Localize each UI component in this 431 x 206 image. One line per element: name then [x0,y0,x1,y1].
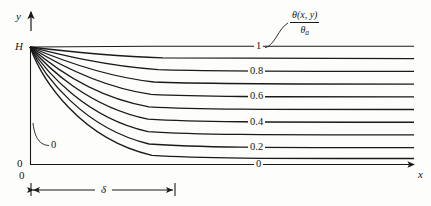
ratio-denominator-subscript: a [305,28,309,37]
ratio-denominator: θa [290,23,319,38]
contour-label-1: 1 [254,41,263,52]
contour-curve-0.1 [30,47,414,159]
contour-label-0.6: 0.6 [248,91,265,102]
y-axis-top-label-H: H [15,41,23,52]
contour-curve-0.9 [30,47,414,59]
contour-curve-0.5 [30,47,414,110]
boundary-layer-contour-plot [0,0,431,206]
contour-label-0.8: 0.8 [248,66,265,77]
delta-label: δ [98,184,109,195]
contour-label-0.2: 0.2 [248,142,265,153]
ratio-annotation: θ(x, y) θa [290,9,319,37]
y-axis-origin-label: 0 [17,158,23,169]
x-axis-label: x [418,169,423,180]
ratio-leader-line [265,23,288,48]
ratio-numerator: θ(x, y) [290,9,319,23]
contour-label-0: 0 [254,159,263,170]
contour-label-0.4: 0.4 [248,117,265,128]
x-axis-origin-label: 0 [19,170,25,181]
figure-container: y x H 0 0 1 0.8 0.6 0.4 0.2 0 0 δ θ(x, y… [0,0,431,206]
zero-callout-leader-line [33,123,49,146]
y-axis-label: y [16,11,21,22]
contour-curve-1 [30,46,414,47]
zero-callout-label: 0 [51,140,56,151]
